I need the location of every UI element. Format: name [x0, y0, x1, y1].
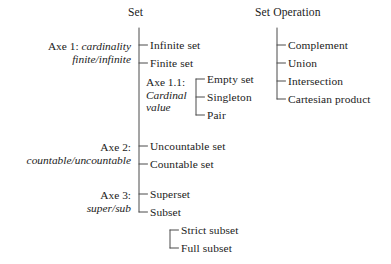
axis-label-axe-1-1: Axe 1.1: Cardinal value	[146, 76, 187, 114]
axe-1-value: cardinality	[81, 40, 131, 52]
node-cartesian-product: Cartesian product	[288, 93, 371, 105]
axe-2-value: countable/uncountable	[0, 154, 131, 167]
node-subset: Subset	[150, 206, 181, 218]
node-countable-set: Countable set	[150, 158, 214, 170]
axe-1-1-value: Cardinal	[146, 89, 187, 102]
node-finite-set: Finite set	[150, 57, 193, 69]
axis-label-axe-3: Axe 3: super/sub	[0, 189, 131, 214]
root-title-set: Set	[128, 7, 143, 19]
axe-3-value: super/sub	[0, 202, 131, 215]
axis-label-axe-1: Axe 1: cardinality finite/infinite	[0, 40, 131, 65]
node-empty-set: Empty set	[207, 73, 254, 85]
axe-1-1-value-2: value	[146, 101, 187, 114]
set-theory-tree-diagram: Set Set Operation Axe 1: cardinality fin…	[0, 0, 391, 264]
axe-2-name: Axe 2:	[0, 141, 131, 154]
node-superset: Superset	[150, 188, 190, 200]
node-pair: Pair	[207, 109, 226, 121]
axe-1-value-2: finite/infinite	[0, 53, 131, 66]
node-infinite-set: Infinite set	[150, 39, 200, 51]
axis-label-axe-2: Axe 2: countable/uncountable	[0, 141, 131, 166]
node-singleton: Singleton	[207, 91, 252, 103]
node-complement: Complement	[288, 39, 348, 51]
node-full-subset: Full subset	[181, 242, 232, 254]
node-intersection: Intersection	[288, 75, 343, 87]
node-union: Union	[288, 57, 317, 69]
axe-1-1-name: Axe 1.1:	[146, 76, 187, 89]
node-uncountable-set: Uncountable set	[150, 140, 225, 152]
axe-3-name: Axe 3:	[0, 189, 131, 202]
axe-1-name: Axe 1:	[48, 40, 79, 52]
root-title-set-operation: Set Operation	[255, 7, 321, 19]
node-strict-subset: Strict subset	[181, 224, 238, 236]
